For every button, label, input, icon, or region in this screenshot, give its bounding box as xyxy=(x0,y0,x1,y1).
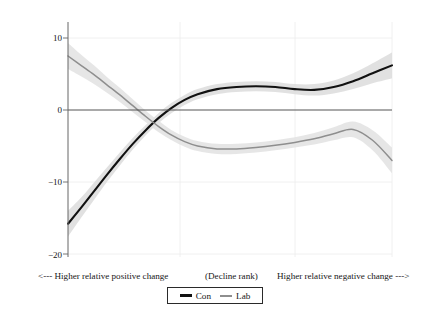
legend-label-con: Con xyxy=(196,291,211,301)
y-axis-ticks xyxy=(63,38,68,254)
chart-legend: Con Lab xyxy=(167,287,263,304)
confidence-band-lab xyxy=(68,43,392,173)
x-axis-note-left: <--- Higher relative positive change xyxy=(38,271,168,281)
x-axis-note-center: (Decline rank) xyxy=(205,271,258,281)
legend-swatch-lab-icon xyxy=(220,295,232,297)
legend-item-con: Con xyxy=(180,291,211,301)
legend-swatch-con-icon xyxy=(180,294,192,297)
legend-label-lab: Lab xyxy=(236,291,250,301)
gridlines xyxy=(68,22,392,257)
confidence-bands xyxy=(68,43,392,237)
chart-figure: Change in vote share, 1979–2019 (%) 10 0… xyxy=(0,0,428,317)
plot-area xyxy=(0,0,428,317)
x-axis-note-right: Higher relative negative change ---> xyxy=(277,271,409,281)
legend-item-lab: Lab xyxy=(220,291,250,301)
